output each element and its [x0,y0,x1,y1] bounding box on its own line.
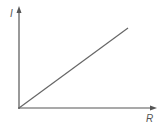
y-axis-label: I [10,8,13,19]
y-axis-arrow-icon [17,6,22,13]
x-axis-arrow-icon [150,106,157,111]
chart-canvas [0,0,166,127]
data-line [19,28,128,108]
x-axis-label: R [146,113,153,124]
